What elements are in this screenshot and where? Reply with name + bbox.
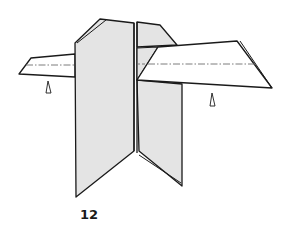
left-push-arrow-icon <box>46 81 51 93</box>
left-wing <box>19 54 75 77</box>
origami-diagram <box>0 0 287 237</box>
left-vertical-panel <box>75 19 134 197</box>
step-number: 12 <box>80 207 98 222</box>
right-wing <box>137 41 272 88</box>
right-push-arrow-icon <box>210 93 215 106</box>
back-right-top-panel <box>137 22 177 47</box>
right-vertical-panel <box>137 80 182 186</box>
